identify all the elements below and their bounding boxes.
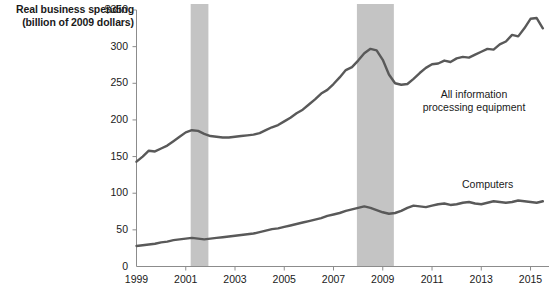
series-label-equipment-line-2: processing equipment (404, 101, 544, 114)
y-axis-tick-label: 150 (60, 151, 128, 162)
x-axis-tick-label: 2015 (501, 274, 554, 285)
y-axis-tick-label: 50 (60, 224, 128, 235)
series-label-equipment-line-1: All information (404, 88, 544, 101)
series-label-computers: Computers (462, 178, 513, 191)
x-axis-ticks (186, 267, 531, 271)
chart-figure: Real business spending (billion of 2009 … (0, 0, 554, 296)
y-axis-tick-label: $350 (60, 4, 128, 15)
y-axis-ticks (133, 10, 137, 230)
axis-title-line-2: (billion of 2009 dollars) (6, 16, 134, 29)
recession-band (357, 4, 394, 267)
recession-bands (191, 4, 394, 267)
y-axis-tick-label: 250 (60, 77, 128, 88)
series-label-all-information-processing-equipment: All information processing equipment (404, 88, 544, 114)
y-axis-tick-label: 300 (60, 41, 128, 52)
y-axis-tick-label: 0 (60, 261, 128, 272)
y-axis-tick-label: 200 (60, 114, 128, 125)
y-axis-tick-label: 100 (60, 187, 128, 198)
